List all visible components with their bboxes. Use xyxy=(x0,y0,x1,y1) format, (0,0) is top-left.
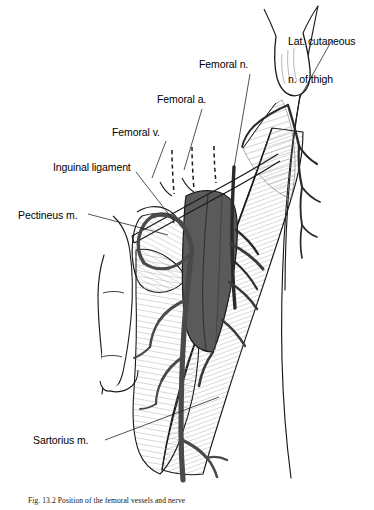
label-pectineus-muscle: Pectineus m. xyxy=(18,209,78,222)
figure-caption: Fig. 13.2 Position of the femoral vessel… xyxy=(28,496,185,505)
label-lat-cutaneous-nerve-line2: n. of thigh xyxy=(288,73,356,86)
label-lat-cutaneous-nerve-line1: Lat. cutaneous xyxy=(288,35,356,48)
label-inguinal-ligament: Inguinal ligament xyxy=(53,161,131,174)
label-femoral-vein: Femoral v. xyxy=(112,126,160,139)
leader-femoral-vein xyxy=(152,141,166,178)
cut-vessel-solid-tails xyxy=(160,178,194,196)
label-sartorius-muscle: Sartorius m. xyxy=(33,434,88,447)
leader-femoral-artery xyxy=(184,109,202,170)
label-femoral-artery: Femoral a. xyxy=(157,93,206,106)
label-femoral-nerve: Femoral n. xyxy=(199,58,248,71)
cut-vessel-dashed-marks xyxy=(172,146,216,194)
label-lat-cutaneous-nerve: Lat. cutaneous n. of thigh xyxy=(288,10,356,110)
anatomical-figure: Lat. cutaneous n. of thigh Femoral n. Fe… xyxy=(0,0,374,510)
